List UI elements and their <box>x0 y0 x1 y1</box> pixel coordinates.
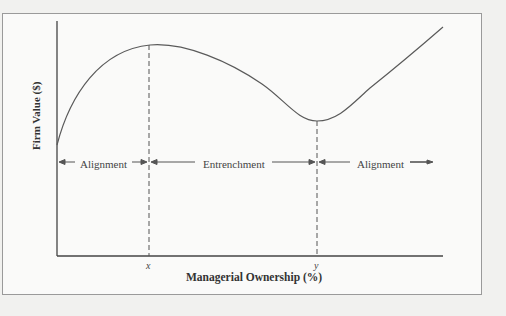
region-label-alignment-1: Alignment <box>80 158 127 170</box>
x-tick-label-y: y <box>314 260 318 271</box>
region-label-alignment-2: Alignment <box>357 158 404 170</box>
firm-value-curve <box>57 27 443 145</box>
x-tick-label-x: x <box>146 260 150 271</box>
y-axis-label: Firm Value ($) <box>30 82 42 150</box>
x-axis-label: Managerial Ownership (%) <box>186 271 322 283</box>
region-label-entrenchment: Entrenchment <box>203 158 265 170</box>
